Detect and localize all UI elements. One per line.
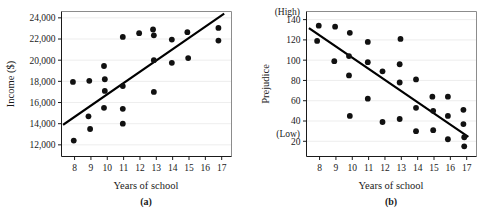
data-point xyxy=(101,105,107,111)
x-tick-label: 11 xyxy=(364,163,373,173)
regression-line xyxy=(64,14,223,124)
data-point xyxy=(151,32,157,38)
y-tick-label: 120 xyxy=(286,35,301,45)
data-point xyxy=(397,61,403,67)
y-tick: 40 xyxy=(291,116,307,126)
y-tick-label: 100 xyxy=(286,56,301,66)
data-point xyxy=(380,68,386,74)
y-tick: 60 xyxy=(291,96,307,106)
y-tick-label: 80 xyxy=(291,76,301,86)
y-tick: 12,000 xyxy=(29,140,61,150)
y-tick: 20 xyxy=(291,137,307,147)
y-tick-label: 20 xyxy=(291,137,301,147)
panel-b-svg: Prejudice (High) (Low) 20406080100120140… xyxy=(245,0,489,215)
data-point xyxy=(169,37,175,43)
data-point xyxy=(332,24,338,30)
data-point xyxy=(429,94,435,100)
data-point xyxy=(397,116,403,122)
x-tick: 12 xyxy=(135,157,145,173)
data-point xyxy=(184,29,190,35)
y-tick: 18,000 xyxy=(29,77,61,87)
data-point xyxy=(398,36,404,42)
data-point xyxy=(314,38,320,44)
data-point xyxy=(120,83,126,89)
x-tick: 16 xyxy=(201,157,211,173)
panel-b-y-ticks: 20406080100120140 xyxy=(286,15,306,147)
x-tick: 8 xyxy=(317,157,322,173)
x-tick: 11 xyxy=(119,157,128,173)
panel-a-data-points xyxy=(70,25,221,144)
x-tick: 13 xyxy=(397,157,407,173)
panel-b-x-ticks: 891011121314151617 xyxy=(317,157,471,173)
x-tick-label: 12 xyxy=(380,163,390,173)
x-tick-label: 14 xyxy=(168,163,178,173)
x-tick-label: 11 xyxy=(119,163,128,173)
data-point xyxy=(316,23,322,29)
y-tick: 140 xyxy=(286,15,306,25)
y-tick: 22,000 xyxy=(29,34,61,44)
data-point xyxy=(430,108,436,114)
data-point xyxy=(461,134,467,140)
data-point xyxy=(86,78,92,84)
regression-line xyxy=(310,29,468,136)
data-point xyxy=(461,143,467,149)
x-tick: 14 xyxy=(168,157,178,173)
data-point xyxy=(216,25,222,31)
data-point xyxy=(120,106,126,112)
data-point xyxy=(445,113,451,119)
x-tick-label: 13 xyxy=(152,163,162,173)
panel-b-caption: (b) xyxy=(385,196,397,208)
x-tick: 11 xyxy=(364,157,373,173)
data-point xyxy=(461,107,467,113)
panel-a-caption: (a) xyxy=(140,196,152,208)
x-tick-label: 9 xyxy=(89,163,94,173)
x-tick: 16 xyxy=(446,157,456,173)
y-tick: 14,000 xyxy=(29,119,61,129)
x-tick-label: 10 xyxy=(103,163,113,173)
data-point xyxy=(185,55,191,61)
data-point xyxy=(331,58,337,64)
y-tick: 20,000 xyxy=(29,56,61,66)
y-tick-label: 18,000 xyxy=(29,77,55,87)
panel-a-svg: Income ($) 12,00014,00016,00018,00020,00… xyxy=(0,0,244,215)
panel-a-y-axis-title: Income ($) xyxy=(5,60,17,107)
data-point xyxy=(445,94,451,100)
x-tick: 9 xyxy=(334,157,339,173)
data-point xyxy=(365,96,371,102)
panel-b-trend-line xyxy=(310,29,468,136)
data-point xyxy=(346,53,352,59)
x-tick-label: 15 xyxy=(429,163,439,173)
data-point xyxy=(397,80,403,86)
panel-b-y-axis-title: Prejudice xyxy=(260,64,271,104)
y-tick: 100 xyxy=(286,56,306,66)
x-tick: 8 xyxy=(72,157,77,173)
x-tick-label: 10 xyxy=(348,163,358,173)
panel-a-x-axis-title: Years of school xyxy=(114,180,179,191)
panel-b-data-points xyxy=(314,23,467,149)
scatter-panel-b: Prejudice (High) (Low) 20406080100120140… xyxy=(245,0,489,215)
data-point xyxy=(413,105,419,111)
data-point xyxy=(120,34,126,40)
data-point xyxy=(445,136,451,142)
y-tick-label: 40 xyxy=(291,116,301,126)
x-tick: 17 xyxy=(462,157,472,173)
x-tick: 15 xyxy=(184,157,194,173)
data-point xyxy=(101,63,107,69)
x-tick-label: 8 xyxy=(317,163,322,173)
panel-b-x-axis-title: Years of school xyxy=(359,180,424,191)
y-tick-label: 14,000 xyxy=(29,119,55,129)
data-point xyxy=(136,30,142,36)
data-point xyxy=(347,113,353,119)
y-tick: 120 xyxy=(286,35,306,45)
y-tick: 16,000 xyxy=(29,98,61,108)
data-point xyxy=(151,89,157,95)
scatter-panel-a: Income ($) 12,00014,00016,00018,00020,00… xyxy=(0,0,244,215)
data-point xyxy=(102,76,108,82)
panel-b-gridlines xyxy=(307,20,477,142)
x-tick: 10 xyxy=(103,157,113,173)
data-point xyxy=(413,128,419,134)
x-tick-label: 8 xyxy=(72,163,77,173)
x-tick-label: 17 xyxy=(462,163,472,173)
y-tick-label: 140 xyxy=(286,15,301,25)
data-point xyxy=(365,59,371,65)
